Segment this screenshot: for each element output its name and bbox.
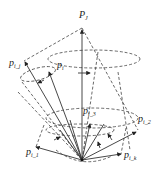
label-PJ: PJ (78, 9, 88, 21)
vector-p-i3 (82, 124, 90, 160)
rotation-arrow-3 (108, 134, 112, 140)
inner-ellipse (19, 64, 57, 85)
vector-p-i (49, 72, 82, 160)
origin-point (81, 159, 84, 162)
vector-fan-3 (60, 130, 82, 160)
label-p-i3: pi_3 (82, 105, 96, 117)
label-p-i2: pi_2 (137, 113, 151, 125)
lower-edge-left (36, 125, 44, 147)
label-p-i: pi (56, 59, 64, 71)
upper-cone-edge-left (24, 28, 82, 61)
rotation-arrow-4 (98, 142, 100, 148)
label-p-ik: pi_k (123, 149, 137, 161)
label-p-ij: pi_j (8, 57, 21, 69)
rotation-arrow-2 (54, 137, 60, 140)
vector-p-ij (25, 62, 82, 160)
label-p-i1: pi_1 (25, 146, 39, 158)
cone-diagram: PJ pi_j pi pi_3 pi_2 pi_1 pi_k (0, 0, 157, 172)
vector-fan-1 (70, 120, 82, 160)
lower-small-ellipse (46, 124, 114, 136)
rotation-arrow-1 (38, 80, 44, 83)
